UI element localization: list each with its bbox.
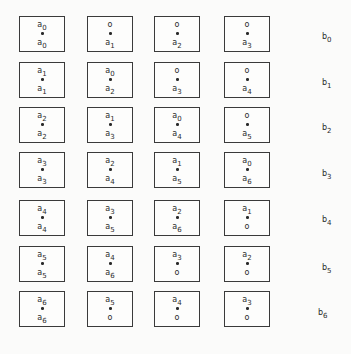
cell-bottom-label: a4 bbox=[155, 129, 199, 138]
grid-cell: a0a4 bbox=[154, 107, 200, 143]
cell-bottom-label: a1 bbox=[20, 84, 64, 93]
center-dot-icon bbox=[109, 216, 112, 219]
cell-bottom-label: a5 bbox=[225, 129, 269, 138]
center-dot-icon bbox=[41, 262, 44, 265]
center-dot-icon bbox=[41, 32, 44, 35]
grid-cell: a3o bbox=[154, 246, 200, 282]
grid-cell: a4a4 bbox=[19, 200, 65, 236]
grid-cell: a2a2 bbox=[19, 107, 65, 143]
grid-cell: a0a6 bbox=[224, 152, 270, 188]
cell-top-label: a3 bbox=[225, 295, 269, 304]
cell-bottom-label: a2 bbox=[20, 129, 64, 138]
cell-bottom-label: a3 bbox=[155, 84, 199, 93]
center-dot-icon bbox=[246, 78, 249, 81]
grid-cell: a4o bbox=[154, 291, 200, 327]
center-dot-icon bbox=[41, 216, 44, 219]
cell-bottom-label: a3 bbox=[225, 38, 269, 47]
cell-bottom-label: a3 bbox=[88, 129, 132, 138]
grid-cell: a2o bbox=[224, 246, 270, 282]
center-dot-icon bbox=[41, 78, 44, 81]
grid-cell: a3a3 bbox=[19, 152, 65, 188]
center-dot-icon bbox=[176, 168, 179, 171]
cell-bottom-label: a6 bbox=[20, 313, 64, 322]
center-dot-icon bbox=[109, 78, 112, 81]
cell-top-label: a3 bbox=[20, 156, 64, 165]
grid-cell: oa3 bbox=[224, 16, 270, 52]
cell-top-label: a3 bbox=[155, 250, 199, 259]
center-dot-icon bbox=[246, 32, 249, 35]
cell-top-label: a0 bbox=[155, 111, 199, 120]
grid-cell: a0a0 bbox=[19, 16, 65, 52]
cell-top-label: o bbox=[88, 20, 132, 29]
cell-bottom-label: a6 bbox=[155, 222, 199, 231]
cell-top-label: a1 bbox=[225, 204, 269, 213]
grid-cell: a3a5 bbox=[87, 200, 133, 236]
center-dot-icon bbox=[109, 307, 112, 310]
grid-cell: oa5 bbox=[224, 107, 270, 143]
cell-bottom-label: a3 bbox=[20, 174, 64, 183]
grid-cell: oa3 bbox=[154, 62, 200, 98]
grid-cell: a1o bbox=[224, 200, 270, 236]
center-dot-icon bbox=[246, 262, 249, 265]
center-dot-icon bbox=[246, 123, 249, 126]
grid-cell: a0a2 bbox=[87, 62, 133, 98]
grid-cell: oa4 bbox=[224, 62, 270, 98]
cell-bottom-label: a0 bbox=[20, 38, 64, 47]
cell-bottom-label: a2 bbox=[155, 38, 199, 47]
cell-top-label: a2 bbox=[88, 156, 132, 165]
row-b-label: b5 bbox=[322, 263, 332, 272]
cell-bottom-label: o bbox=[225, 222, 269, 231]
center-dot-icon bbox=[176, 307, 179, 310]
cell-top-label: a0 bbox=[88, 66, 132, 75]
grid-cell: a3o bbox=[224, 291, 270, 327]
center-dot-icon bbox=[246, 168, 249, 171]
center-dot-icon bbox=[176, 262, 179, 265]
cell-bottom-label: o bbox=[225, 313, 269, 322]
cell-top-label: a2 bbox=[155, 204, 199, 213]
cell-top-label: o bbox=[225, 66, 269, 75]
cell-top-label: o bbox=[225, 20, 269, 29]
center-dot-icon bbox=[246, 216, 249, 219]
grid-cell: a5o bbox=[87, 291, 133, 327]
cell-bottom-label: a4 bbox=[20, 222, 64, 231]
grid-cell: oa2 bbox=[154, 16, 200, 52]
grid-cell: a2a6 bbox=[154, 200, 200, 236]
cell-top-label: a6 bbox=[20, 295, 64, 304]
center-dot-icon bbox=[246, 307, 249, 310]
center-dot-icon bbox=[109, 32, 112, 35]
center-dot-icon bbox=[109, 168, 112, 171]
cell-bottom-label: o bbox=[225, 268, 269, 277]
cell-top-label: o bbox=[155, 20, 199, 29]
cell-top-label: a1 bbox=[88, 111, 132, 120]
cell-bottom-label: o bbox=[155, 268, 199, 277]
center-dot-icon bbox=[109, 262, 112, 265]
cell-bottom-label: a5 bbox=[88, 222, 132, 231]
cell-top-label: a4 bbox=[20, 204, 64, 213]
cell-bottom-label: a5 bbox=[155, 174, 199, 183]
cell-bottom-label: a4 bbox=[88, 174, 132, 183]
row-b-label: b1 bbox=[322, 78, 332, 87]
center-dot-icon bbox=[176, 78, 179, 81]
cell-top-label: a0 bbox=[225, 156, 269, 165]
cell-top-label: a2 bbox=[225, 250, 269, 259]
cell-top-label: a2 bbox=[20, 111, 64, 120]
cell-top-label: a1 bbox=[155, 156, 199, 165]
cell-top-label: a5 bbox=[88, 295, 132, 304]
row-b-label: b6 bbox=[318, 308, 328, 317]
grid-cell: a5a5 bbox=[19, 246, 65, 282]
cell-top-label: a4 bbox=[88, 250, 132, 259]
row-b-label: b3 bbox=[322, 169, 332, 178]
cell-bottom-label: a6 bbox=[225, 174, 269, 183]
center-dot-icon bbox=[41, 307, 44, 310]
cell-top-label: o bbox=[225, 111, 269, 120]
row-b-label: b2 bbox=[322, 123, 332, 132]
grid-cell: oa1 bbox=[87, 16, 133, 52]
cell-bottom-label: a1 bbox=[88, 38, 132, 47]
cell-bottom-label: a5 bbox=[20, 268, 64, 277]
center-dot-icon bbox=[176, 32, 179, 35]
cell-bottom-label: o bbox=[88, 313, 132, 322]
grid-cell: a2a4 bbox=[87, 152, 133, 188]
cell-top-label: o bbox=[155, 66, 199, 75]
row-b-label: b4 bbox=[322, 215, 332, 224]
center-dot-icon bbox=[41, 123, 44, 126]
